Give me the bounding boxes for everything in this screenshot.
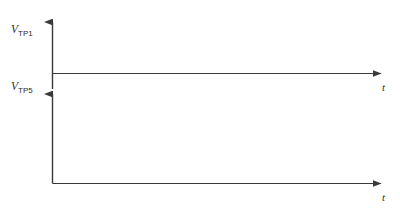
lower-plot-y-axis-label-subscript: TP5	[18, 86, 33, 95]
upper-plot-y-axis-label-subscript: TP1	[18, 29, 33, 38]
lower-plot: VTP5 t	[11, 80, 386, 203]
upper-plot-y-axis-label: VTP1	[11, 23, 33, 38]
lower-plot-y-axis-label: VTP5	[11, 80, 33, 95]
upper-plot: VTP1 t	[11, 22, 386, 93]
upper-plot-x-axis-label: t	[382, 81, 386, 93]
waveform-timing-diagram: VTP1 t VTP5 t	[0, 0, 400, 208]
lower-plot-x-axis-label: t	[382, 191, 386, 203]
